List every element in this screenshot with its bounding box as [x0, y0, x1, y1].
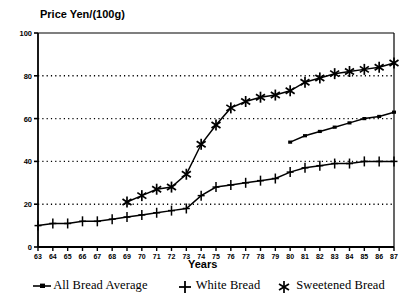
y-tick-label: 80	[6, 72, 32, 81]
legend-label-sweetened-bread: Sweetened Bread	[296, 278, 385, 293]
y-tick-label: 0	[6, 243, 32, 252]
y-tick-label: 20	[6, 200, 32, 209]
legend-label-white-bread: White Bread	[196, 278, 261, 293]
x-tick-label: 87	[385, 253, 403, 260]
y-tick-label: 40	[6, 157, 32, 166]
axis-lines	[38, 33, 394, 247]
legend-label-all-bread-average: All Bread Average	[53, 278, 148, 293]
plus-marker-icon	[174, 279, 196, 293]
asterisk-marker-icon	[274, 279, 296, 293]
y-tick-label: 100	[6, 29, 32, 38]
legend-entry-sweetened-bread: Sweetened Bread	[274, 278, 385, 293]
series-all-bread-average	[288, 111, 396, 144]
chart-container: Price Yen/(100g) Years 02040608010063646…	[0, 0, 416, 308]
plot-area	[0, 0, 416, 270]
y-tick-label: 60	[6, 115, 32, 124]
legend-entry-white-bread: White Bread	[174, 278, 261, 293]
dash-marker-icon	[31, 279, 53, 293]
series-white-bread	[35, 156, 398, 230]
chart-legend: All Bread Average White Bread	[0, 278, 416, 293]
legend-entry-all-bread-average: All Bread Average	[31, 278, 148, 293]
